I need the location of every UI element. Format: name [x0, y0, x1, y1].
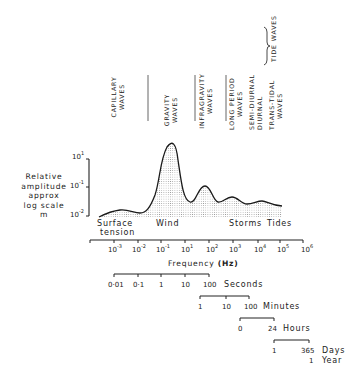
seconds-tick: 0·01 — [108, 281, 124, 289]
force-label-surface: Surface — [97, 219, 133, 228]
x-tick: 104 — [254, 246, 266, 254]
x-tick: 102 — [206, 246, 218, 254]
band-label-capillary: CAPILLARYWAVES — [110, 74, 125, 120]
y-tick-10e1: 101 — [72, 153, 84, 161]
seconds-tick: 100 — [203, 281, 216, 289]
minutes-scale — [200, 296, 249, 299]
x-tick: 103 — [229, 246, 241, 254]
year-unit: Year — [322, 356, 342, 365]
seconds-scale — [114, 274, 209, 277]
days-scale — [274, 340, 309, 343]
y-axis-label: Relative amplitude approx log scale m — [14, 172, 74, 220]
band-label-infragravity: INFRAGRAVITYWAVES — [198, 73, 213, 129]
x-tick: 10-1 — [156, 246, 170, 254]
seconds-tick: 10 — [181, 281, 190, 289]
x-tick: 10-2 — [132, 246, 146, 254]
minutes-unit: Minutes — [263, 302, 300, 311]
minutes-tick: 1 — [198, 303, 202, 311]
y-tick-10e-2: 10-2 — [70, 211, 84, 219]
band-label-long-period: LONG PERIODWAVES — [228, 78, 243, 130]
y-tick-10e-1: 10-1 — [70, 182, 84, 190]
band-label-semi-diurnal: SEMI-DIURNALDIURNAL — [248, 74, 263, 130]
x-tick: 105 — [277, 246, 289, 254]
hours-unit: Hours — [283, 324, 310, 333]
x-axis-label: Frequency (Hz) — [168, 259, 239, 268]
x-tick: 10-3 — [108, 246, 122, 254]
seconds-tick: 1 — [159, 281, 163, 289]
force-label-storms: Storms — [229, 219, 262, 228]
hours-tick: 24 — [268, 325, 277, 333]
band-label-tide-waves: TIDE WAVES — [270, 2, 278, 62]
minutes-tick: 100 — [244, 303, 257, 311]
x-tick: 101 — [181, 246, 193, 254]
minutes-tick: 10 — [222, 303, 231, 311]
force-label-wind: Wind — [156, 219, 179, 228]
force-label-tides: Tides — [267, 219, 292, 228]
band-label-trans-tidal: TRANS-TIDALWAVES — [268, 82, 283, 130]
days-tick: 365 — [301, 347, 314, 355]
days-unit: Days — [322, 346, 345, 355]
seconds-unit: Seconds — [224, 280, 263, 289]
force-label-tension: tension — [100, 228, 135, 237]
year-tick: 1 — [309, 357, 313, 365]
seconds-tick: 0·1 — [133, 281, 144, 289]
band-label-gravity: GRAVITYWAVES — [163, 90, 178, 130]
hours-tick: 0 — [238, 325, 242, 333]
x-tick: 106 — [301, 246, 313, 254]
hours-scale — [240, 318, 274, 321]
spectrum-fill — [99, 143, 282, 217]
days-tick: 1 — [272, 347, 276, 355]
